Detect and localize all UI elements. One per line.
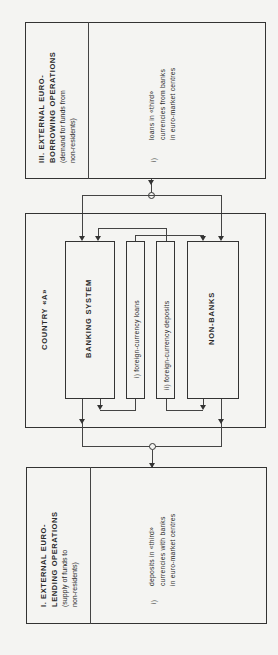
foreign-currency-deposits-label: ii) foreign-currency deposits xyxy=(162,301,173,390)
arrow-down-icon xyxy=(97,405,103,410)
section-i-item-3: in euro-market centres xyxy=(168,514,179,586)
arrow-down-icon xyxy=(95,236,101,241)
banking-system-label: BANKING SYSTEM xyxy=(84,279,93,358)
section-iii-heading: III. EXTERNAL EURO- BORROWING OPERATIONS… xyxy=(36,52,78,163)
connector-line xyxy=(166,410,203,411)
connector-line xyxy=(166,399,167,410)
section-i-sub-1: (supply of funds to xyxy=(60,511,70,607)
arrow-down-icon xyxy=(200,405,206,410)
section-i-item: deposits in «third» currencies with bank… xyxy=(147,514,179,586)
connector-line xyxy=(135,399,136,410)
section-iii-divider xyxy=(88,22,89,179)
section-i-heading: I. EXTERNAL EURO- LENDING OPERATIONS (su… xyxy=(38,511,80,607)
arrow-down-icon xyxy=(148,180,154,185)
section-i-sub-2: non-residents) xyxy=(70,511,80,607)
connector-line xyxy=(135,235,136,241)
arrow-down-icon xyxy=(79,419,85,424)
section-iii-sub-1: (demand for funds from xyxy=(58,52,68,163)
section-iii-item-num: i) xyxy=(149,158,160,162)
junction-circle-icon xyxy=(149,443,156,450)
section-iii-title-1: III. EXTERNAL EURO- xyxy=(36,52,47,163)
arrow-down-icon xyxy=(200,236,206,241)
country-a-title: COUNTRY «A» xyxy=(40,289,49,350)
section-iii-item-2: currencies from banks xyxy=(158,68,169,140)
connector-line xyxy=(135,235,203,236)
foreign-currency-loans-label: i) foreign-currency loans xyxy=(132,300,143,378)
arrow-down-icon xyxy=(218,419,224,424)
section-i-title-1: I. EXTERNAL EURO- xyxy=(38,511,49,607)
connector-line xyxy=(100,410,136,411)
section-i-title-2: LENDING OPERATIONS xyxy=(49,511,60,607)
section-i-item-2: currencies with banks xyxy=(158,514,169,586)
arrow-down-icon xyxy=(218,236,224,241)
section-i-item-num: i) xyxy=(149,600,160,604)
connector-line xyxy=(82,195,221,196)
connector-line xyxy=(98,228,166,229)
section-iii-item-3: in euro-market centres xyxy=(168,68,179,140)
section-iii-item: loans in «third» currencies from banks i… xyxy=(147,68,179,140)
arrow-down-icon xyxy=(79,236,85,241)
section-i-item-1: deposits in «third» xyxy=(147,514,158,586)
non-banks-label: NON-BANKS xyxy=(207,292,216,345)
section-iii-title-2: BORROWING OPERATIONS xyxy=(47,52,58,163)
section-iii-sub-2: non-residents) xyxy=(68,52,78,163)
section-i-divider xyxy=(90,467,91,624)
section-iii-item-1: loans in «third» xyxy=(147,68,158,140)
